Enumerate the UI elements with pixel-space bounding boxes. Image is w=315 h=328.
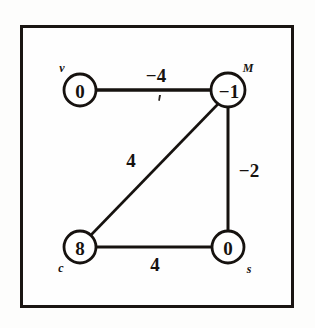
edge-weight-c-M: 4	[126, 150, 136, 171]
node-label-c: c	[58, 261, 64, 275]
figure-root: 0 −1 8 0 v M c s −4 −2 4 4	[0, 0, 315, 328]
edge-weight-M-s: −2	[239, 160, 259, 181]
edge-weight-v-M: −4	[146, 65, 167, 86]
node-value-c: 8	[75, 238, 85, 259]
node-value-M: −1	[219, 81, 239, 102]
node-label-v: v	[59, 61, 65, 75]
edge-weight-c-s: 4	[150, 254, 160, 275]
node-label-s: s	[246, 262, 252, 276]
node-value-s: 0	[223, 238, 233, 259]
node-label-M: M	[242, 61, 254, 75]
node-value-v: 0	[75, 81, 85, 102]
graph-canvas: 0 −1 8 0 v M c s −4 −2 4 4	[0, 0, 315, 328]
